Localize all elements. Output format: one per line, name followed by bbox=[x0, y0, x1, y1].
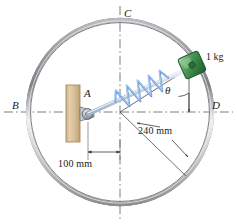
label-point-b: B bbox=[12, 100, 19, 111]
label-point-c: C bbox=[124, 8, 131, 19]
label-dimension-100mm: 100 mm bbox=[58, 159, 92, 169]
dimension-100mm bbox=[88, 122, 120, 160]
label-collar-mass: 1 kg bbox=[206, 52, 224, 62]
spring-rod-assembly bbox=[88, 67, 190, 114]
label-dimension-240mm: 240 mm bbox=[138, 126, 172, 136]
theta-arc bbox=[179, 93, 190, 97]
leader-240-lower bbox=[172, 140, 188, 157]
ring-spring-collar-diagram bbox=[0, 0, 237, 224]
label-angle-theta: θ bbox=[165, 85, 170, 96]
centerlines bbox=[4, 6, 233, 219]
label-point-a: A bbox=[84, 88, 91, 99]
label-point-d: D bbox=[212, 100, 220, 111]
bracket-block bbox=[66, 85, 80, 142]
